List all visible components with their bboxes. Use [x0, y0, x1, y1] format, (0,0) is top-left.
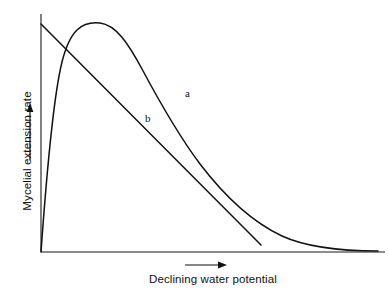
curve-series-a	[41, 23, 378, 252]
line-series-b	[41, 24, 261, 245]
x-axis-arrow-group	[185, 262, 227, 269]
chart-canvas	[0, 0, 389, 295]
series-label-a: a	[185, 88, 190, 99]
series-label-b: b	[145, 113, 151, 124]
y-axis-label: Mycelial extension rate	[21, 71, 33, 231]
x-axis-label: Declining water potential	[149, 273, 277, 285]
chart-figure: a b Declining water potential Mycelial e…	[0, 0, 389, 295]
